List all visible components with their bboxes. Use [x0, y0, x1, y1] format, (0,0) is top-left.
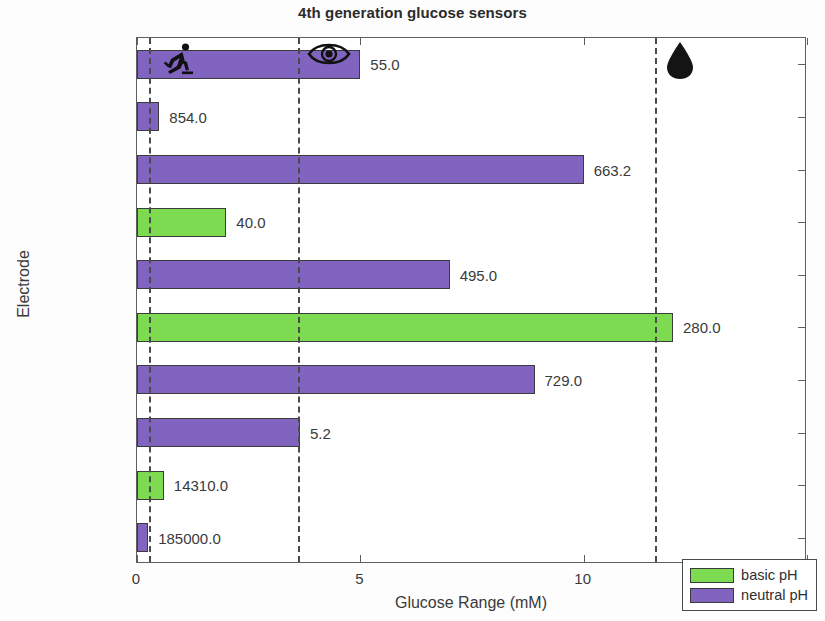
y-axis-tick [798, 327, 805, 328]
y-axis-tick [798, 380, 805, 381]
x-axis-tick [807, 38, 808, 45]
y-axis-tick [798, 117, 805, 118]
bar-value-label: 185000.0 [158, 529, 221, 546]
legend-item-label: basic pH [741, 567, 797, 583]
bar-value-label: 280.0 [683, 319, 721, 336]
legend-color-swatch [690, 568, 734, 583]
y-axis-tick [798, 538, 805, 539]
bar-value-label: 729.0 [545, 371, 583, 388]
bar-value-label: 14310.0 [174, 477, 228, 494]
chart-legend: basic pHneutral pH [682, 559, 817, 611]
legend-item-label: neutral pH [741, 587, 808, 603]
x-axis-tick [137, 555, 138, 562]
bar-value-label: 5.2 [310, 424, 331, 441]
chart-figure: 4th generation glucose sensors Electrode… [0, 0, 825, 621]
running-person-icon [158, 40, 200, 74]
x-axis-tick [137, 38, 138, 45]
x-axis-tick [584, 555, 585, 562]
y-axis-tick [798, 170, 805, 171]
bar-value-label: 854.0 [169, 108, 207, 125]
y-axis-tick [798, 485, 805, 486]
x-axis-tick [360, 38, 361, 45]
bar-value-label: 663.2 [594, 161, 632, 178]
reference-line [655, 38, 657, 562]
y-axis-title: Electrode [15, 224, 33, 344]
bar-value-label: 40.0 [236, 214, 265, 231]
blood-drop-icon [664, 40, 706, 74]
x-axis-tick-label: 10 [574, 570, 591, 587]
bar [137, 260, 450, 289]
x-axis-tick-label: 0 [132, 570, 140, 587]
reference-line [149, 38, 151, 562]
bar-value-label: 495.0 [460, 266, 498, 283]
y-axis-tick [798, 433, 805, 434]
reference-line [298, 38, 300, 562]
x-axis-tick [360, 555, 361, 562]
y-axis-tick [798, 275, 805, 276]
bar [137, 365, 535, 394]
x-axis-tick-label: 5 [355, 570, 363, 587]
y-axis-tick [798, 64, 805, 65]
bar-value-label: 55.0 [370, 56, 399, 73]
bar [137, 313, 673, 342]
legend-item: basic pH [690, 565, 808, 585]
bar [137, 418, 300, 447]
legend-item: neutral pH [690, 585, 808, 605]
x-axis-tick [584, 38, 585, 45]
bar [137, 523, 148, 552]
page-title: 4th generation glucose sensors [0, 4, 825, 21]
plot-area: 55.0854.0663.240.0495.0280.0729.05.21431… [136, 37, 806, 563]
y-axis-tick [798, 222, 805, 223]
bar [137, 155, 584, 184]
legend-color-swatch [690, 588, 734, 603]
eye-icon [307, 40, 349, 74]
